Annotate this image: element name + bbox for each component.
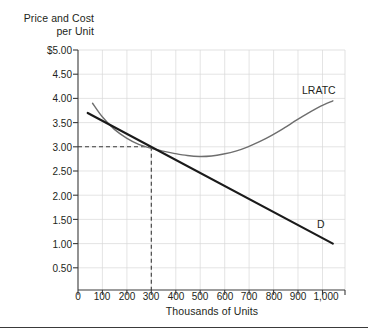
gridlines-horizontal: [78, 74, 345, 268]
gridlines-vertical: [102, 50, 322, 290]
plot-canvas: [0, 0, 368, 335]
demand-label: D: [317, 218, 325, 230]
x-axis-ticks: [78, 290, 345, 295]
demand-curve: [88, 113, 333, 244]
lratc-label: LRATC: [302, 84, 336, 96]
y-axis-ticks: [73, 50, 78, 268]
x-axis-title: Thousands of Units: [78, 305, 346, 317]
chart-figure: Price and Cost per Unit $5.00 4.50 4.00 …: [0, 0, 368, 335]
bottom-divider: [0, 327, 368, 328]
lratc-curve: [93, 101, 333, 157]
